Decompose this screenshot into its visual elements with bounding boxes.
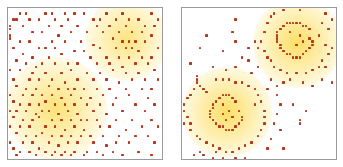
data-point: [96, 25, 98, 27]
data-point: [153, 141, 155, 143]
data-point: [308, 37, 310, 39]
data-point: [292, 56, 294, 58]
data-point: [41, 94, 43, 96]
data-point: [128, 56, 130, 58]
data-point: [212, 107, 214, 109]
data-point: [196, 75, 198, 77]
data-point: [193, 154, 195, 156]
data-point: [247, 47, 249, 49]
data-point: [289, 78, 291, 80]
data-point: [270, 15, 272, 17]
data-point: [260, 129, 262, 131]
data-point: [263, 50, 265, 52]
data-point: [209, 113, 211, 115]
data-point: [270, 59, 272, 61]
data-point: [205, 91, 207, 93]
data-point: [99, 103, 101, 105]
data-point: [186, 97, 188, 99]
data-point: [76, 25, 78, 27]
data-point: [212, 144, 214, 146]
data-point: [105, 113, 107, 115]
data-point: [19, 103, 21, 105]
data-point: [218, 147, 220, 149]
data-point: [222, 157, 224, 159]
data-point: [51, 40, 53, 42]
data-point: [70, 135, 72, 137]
data-point: [183, 103, 185, 105]
data-point: [15, 59, 17, 61]
data-point: [118, 135, 120, 137]
data-point: [83, 50, 85, 52]
data-point: [96, 119, 98, 121]
data-point: [305, 50, 307, 52]
data-point: [89, 97, 91, 99]
data-point: [327, 28, 329, 30]
data-point: [183, 110, 185, 112]
data-point: [260, 100, 262, 102]
data-point: [263, 110, 265, 112]
data-point: [153, 25, 155, 27]
data-point: [12, 100, 14, 102]
data-point: [189, 122, 191, 124]
data-point: [67, 62, 69, 64]
data-point: [60, 25, 62, 27]
data-point: [131, 47, 133, 49]
data-point: [289, 22, 291, 24]
data-point: [128, 141, 130, 143]
data-point: [54, 18, 56, 20]
data-point: [234, 81, 236, 83]
data-point: [41, 62, 43, 64]
data-point: [209, 110, 211, 112]
data-point: [199, 138, 201, 140]
data-point: [311, 44, 313, 46]
data-point: [12, 18, 14, 20]
data-point: [308, 47, 310, 49]
data-point: [150, 88, 152, 90]
data-point: [286, 72, 288, 74]
data-point: [222, 125, 224, 127]
data-point: [102, 31, 104, 33]
data-point: [299, 22, 301, 24]
data-point: [276, 85, 278, 87]
data-point: [35, 88, 37, 90]
data-point: [282, 50, 284, 52]
data-point: [331, 47, 333, 49]
data-point: [189, 94, 191, 96]
data-point: [28, 18, 30, 20]
data-point: [228, 110, 230, 112]
data-point: [60, 154, 62, 156]
data-point: [302, 40, 304, 42]
data-point: [141, 31, 143, 33]
data-point: [22, 53, 24, 55]
data-point: [225, 129, 227, 131]
data-point: [31, 141, 33, 143]
data-point: [241, 119, 243, 121]
data-point: [35, 113, 37, 115]
data-point: [67, 18, 69, 20]
data-point: [273, 12, 275, 14]
data-point: [9, 125, 11, 127]
data-point: [254, 40, 256, 42]
data-point: [25, 88, 27, 90]
data-point: [19, 125, 21, 127]
data-point: [22, 94, 24, 96]
data-point: [244, 157, 246, 159]
data-point: [15, 110, 17, 112]
data-point: [218, 125, 220, 127]
data-point: [222, 78, 224, 80]
data-point: [308, 28, 310, 30]
data-point: [183, 122, 185, 124]
data-point: [279, 28, 281, 30]
data-point: [25, 110, 27, 112]
data-point: [19, 69, 21, 71]
data-point: [150, 119, 152, 121]
data-point: [231, 151, 233, 153]
data-point: [254, 103, 256, 105]
data-point: [15, 132, 17, 134]
data-point: [137, 72, 139, 74]
data-point: [31, 56, 33, 58]
data-point: [331, 18, 333, 20]
data-point: [31, 119, 33, 121]
data-point: [57, 113, 59, 115]
data-point: [121, 154, 123, 156]
